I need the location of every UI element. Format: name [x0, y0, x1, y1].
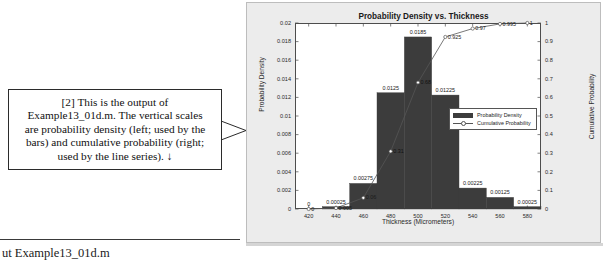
y-tick-left-10: 0.02: [253, 20, 291, 26]
x-tick-2: 460: [351, 213, 375, 219]
y-tick-left-9: 0.018: [253, 38, 291, 44]
cumulative-value-label-1: 0.005: [339, 205, 353, 211]
y-tick-right-7: 0.7: [545, 76, 565, 82]
y-tick-left-6: 0.012: [253, 94, 291, 100]
cumulative-value-label-5: 0.925: [448, 34, 462, 40]
y-tick-right-6: 0.6: [545, 94, 565, 100]
legend-label-0: Probability Density: [477, 112, 522, 118]
bar-value-label-7: 0.00125: [480, 189, 520, 195]
y-tick-right-9: 0.9: [545, 38, 565, 44]
cumulative-value-label-4: 0.68: [421, 79, 432, 85]
y-tick-left-2: 0.004: [253, 169, 291, 175]
bar-value-label-8: 0.00025: [507, 199, 547, 205]
y-tick-right-8: 0.8: [545, 57, 565, 63]
legend-label-1: Cumulative Probability: [477, 120, 531, 126]
x-tick-6: 540: [461, 213, 485, 219]
x-tick-5: 520: [433, 213, 457, 219]
annotation-panel: [2] This is the output of Example13_01d.…: [0, 0, 242, 266]
y-tick-left-1: 0.002: [253, 187, 291, 193]
y-tick-right-5: 0.5: [545, 113, 565, 119]
x-tick-7: 560: [488, 213, 512, 219]
y-tick-left-0: 0: [253, 206, 291, 212]
y-tick-right-2: 0.2: [545, 169, 565, 175]
bottom-caption: ut Example13_01d.m: [2, 246, 240, 261]
x-tick-8: 580: [515, 213, 539, 219]
y-tick-right-0: 0: [545, 206, 565, 212]
cumulative-value-label-0: 0: [311, 206, 314, 212]
callout-text: [2] This is the output of Example13_01d.…: [20, 96, 211, 164]
y-tick-left-7: 0.014: [253, 76, 291, 82]
chart-window: Probability Density vs. Thickness Probab…: [246, 2, 601, 243]
x-tick-0: 420: [297, 213, 321, 219]
bar-value-label-6: 0.00225: [453, 180, 493, 186]
cumulative-value-label-6: 0.97: [475, 25, 486, 31]
callout-box: [2] This is the output of Example13_01d.…: [8, 89, 222, 170]
legend-item-probability-density: Probability Density: [453, 111, 533, 119]
y-tick-left-3: 0.006: [253, 150, 291, 156]
cumulative-value-label-7: 0.995: [503, 21, 517, 27]
y-tick-right-4: 0.4: [545, 131, 565, 137]
x-tick-4: 500: [406, 213, 430, 219]
bar-value-label-3: 0.0125: [371, 85, 411, 91]
cumulative-value-label-3: 0.31: [393, 148, 404, 154]
x-tick-1: 440: [324, 213, 348, 219]
legend-item-cumulative-probability: Cumulative Probability: [453, 119, 533, 127]
legend-bar-swatch-icon: [453, 113, 473, 118]
y-tick-left-5: 0.01: [253, 113, 291, 119]
bar-value-label-2: 0.00275: [343, 175, 383, 181]
horizontal-divider: [0, 239, 240, 240]
legend-line-swatch-icon: [453, 121, 473, 126]
x-tick-3: 480: [379, 213, 403, 219]
y-tick-right-10: 1: [545, 20, 565, 26]
y-tick-right-3: 0.3: [545, 150, 565, 156]
chart-legend: Probability Density Cumulative Probabili…: [449, 108, 537, 130]
bar-value-label-5: 0.01225: [425, 87, 465, 93]
y-tick-left-4: 0.008: [253, 131, 291, 137]
figure-canvas: Probability Density vs. Thickness Probab…: [247, 3, 600, 242]
callout-arrow-icon: [221, 121, 247, 140]
y-tick-left-8: 0.016: [253, 57, 291, 63]
y-tick-right-1: 0.1: [545, 187, 565, 193]
cumulative-value-label-8: 1: [530, 20, 533, 26]
bar-value-label-4: 0.0185: [398, 29, 438, 35]
cumulative-value-label-2: 0.06: [366, 194, 377, 200]
